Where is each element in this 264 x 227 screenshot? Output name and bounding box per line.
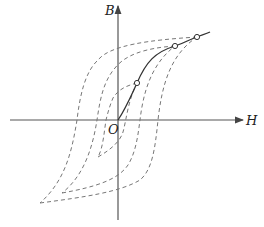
curve-point-2 xyxy=(172,43,177,48)
h-axis-label: H xyxy=(246,114,257,127)
curve-point-3 xyxy=(194,34,199,39)
origin-label: O xyxy=(108,123,119,136)
b-axis-label: B xyxy=(105,4,115,17)
curve-point-1 xyxy=(134,80,139,85)
hysteresis-diagram xyxy=(0,0,264,227)
initial-magnetization-curve xyxy=(118,32,210,120)
